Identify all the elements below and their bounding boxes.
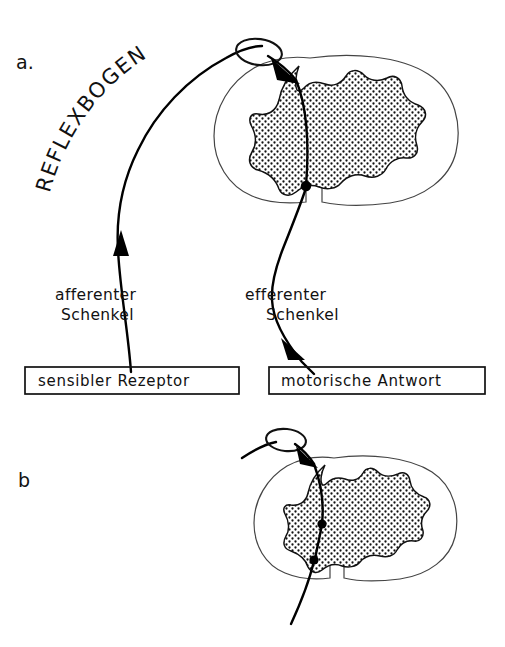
efferent-label-line1: efferenter [245,286,327,304]
afferent-arrowhead-a [113,230,129,256]
figure-canvas: a. [0,0,505,647]
afferent-label-line2: Schenkel [61,306,134,324]
spinal-cord-b [254,456,457,581]
response-box-label: motorische Antwort [281,372,442,390]
arc-label-reflexbogen: REFLEXBOGEN [31,41,151,195]
panel-a: a. [16,36,485,394]
efferent-nerve-a [272,188,314,374]
receptor-box-label: sensibler Rezeptor [38,372,190,390]
efferent-arrowhead-a [281,338,305,360]
afferent-label-line1: afferenter [55,286,137,304]
arc-label-textpath: REFLEXBOGEN [31,41,151,195]
spinal-cord-a [214,55,458,205]
panel-b: b [18,427,457,624]
efferent-label-line2: Schenkel [266,306,339,324]
reflex-arc-diagram: a. [0,0,505,647]
afferent-nerve-b [242,442,276,458]
panel-b-letter: b [18,469,30,491]
response-box[interactable]: motorische Antwort [269,367,485,394]
panel-a-letter: a. [16,51,34,73]
receptor-box[interactable]: sensibler Rezeptor [25,367,239,394]
